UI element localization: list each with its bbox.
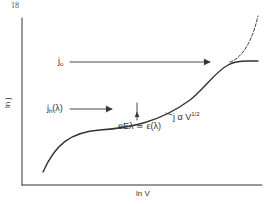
current-voltage-curve: [43, 61, 258, 172]
condition-tick-arrowhead: [135, 112, 139, 117]
slope-exponent: 1/2: [191, 111, 199, 117]
jh-tail: (λ): [52, 103, 63, 113]
slope-label: j α V1/2: [173, 111, 200, 122]
slope-text: j α V: [173, 112, 191, 122]
jh-arrowhead: [106, 106, 112, 112]
x-axis-label: ln V: [136, 190, 150, 198]
breakdown-dashed-curve: [230, 16, 258, 62]
page-number: 18: [11, 1, 19, 10]
j0-label: jo: [58, 57, 63, 67]
condition-label: eEλ ≃ ε(λ): [118, 122, 161, 131]
j0-sub: o: [60, 61, 63, 67]
jh-label: jh(λ): [47, 104, 63, 114]
ln-j-vs-ln-v-diagram: 18 jo jh(λ) j α V1/2 eEλ ≃ ε(λ) ln V: [0, 0, 271, 204]
j0-arrowhead: [204, 59, 210, 65]
diagram-canvas: [0, 0, 271, 204]
y-axis-label: ln j: [3, 98, 12, 108]
